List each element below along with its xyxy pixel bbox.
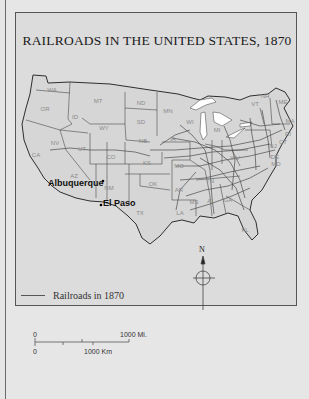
state-label-tn: TN [206,178,214,184]
city-el-paso: El Paso [103,198,136,208]
state-label-co: CO [107,154,116,160]
state-label-id: ID [72,114,79,120]
state-label-ar: AR [175,187,184,193]
city-albuquerque: Albuquerque [48,178,104,188]
state-label-nd: ND [137,100,146,106]
scale-top-zero: 0 [33,331,37,338]
us-map: WAORIDMTWYNDSDMNNBNVUTCOKSCAAZNMOKTXWIIA… [0,0,309,399]
state-label-ok: OK [149,181,158,187]
railroad-legend-line [21,295,45,296]
state-label-or: OR [41,106,51,112]
state-label-ri: RI [285,131,291,137]
scale-bottom-zero: 0 [33,348,37,355]
state-label-wy: WY [99,125,109,131]
state-label-nm: NM [104,185,113,191]
state-label-de: DE [271,154,279,160]
scale-bottom-label: 1000 Km [84,348,112,355]
state-label-me: ME [279,99,288,105]
state-label-wa: WA [47,87,56,93]
scale-bar [35,338,129,346]
state-label-ma: MA [286,118,295,124]
state-label-md: MD [271,161,281,167]
state-label-ks: KS [143,160,151,166]
state-label-wi: WI [186,119,194,125]
state-label-nv: NV [51,140,59,146]
state-label-ca: CA [32,152,40,158]
legend-label: Railroads in 1870 [53,290,124,301]
state-label-mt: MT [94,98,103,104]
state-label-ut: UT [78,146,86,152]
state-label-mi: MI [214,127,221,133]
state-label-ct: CT [279,139,287,145]
state-label-al: AL [207,198,215,204]
state-label-tx: TX [136,210,144,216]
state-label-nj: NJ [269,143,276,149]
el-paso-dot [100,204,103,207]
scale-top-label: 1000 Mi. [120,331,147,338]
compass-rose [193,256,215,310]
state-label-ia: IA [170,136,176,142]
state-label-mn: MN [163,108,172,114]
state-label-fl: FL [241,227,249,233]
state-label-ms: MS [190,199,199,205]
state-label-nb: NB [139,138,147,144]
state-label-nh: NH [261,93,270,99]
state-label-wv: WV [230,155,240,161]
legend: Railroads in 1870 [21,290,124,301]
state-label-sd: SD [137,119,146,125]
compass-n-label: N [199,245,205,254]
state-label-vt: VT [251,101,259,107]
state-label-la: LA [176,210,183,216]
state-label-mo: MO [174,163,184,169]
state-label-ga: GA [224,197,233,203]
